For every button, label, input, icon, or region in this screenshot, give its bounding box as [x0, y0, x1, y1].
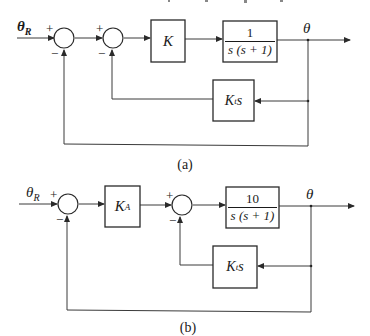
plant-numerator-a: 1	[243, 26, 258, 40]
clipped-text-remnant	[168, 0, 283, 3]
caption-b: (b)	[180, 320, 196, 336]
plant-block-b: 10 s (s + 1)	[226, 187, 279, 228]
input-label-theta-r-a: θR	[17, 18, 31, 37]
plant-numerator-b: 10	[242, 192, 263, 206]
sum-b1-minus-sign: −	[56, 213, 63, 226]
sum-b2-minus-sign: −	[169, 214, 176, 227]
plant-transfer-function-b: 10 s (s + 1)	[228, 192, 278, 224]
kt-s: s	[238, 259, 243, 275]
plant-denominator-a: s (s + 1)	[225, 43, 275, 57]
subscript-r: R	[25, 26, 32, 37]
output-label-theta-b: θ	[306, 186, 313, 203]
sum-b1-plus-sign: +	[50, 188, 57, 201]
summing-junction-b1	[58, 194, 78, 214]
sum-a1-minus-sign: −	[51, 47, 58, 60]
plant-denominator-b: s (s + 1)	[228, 209, 278, 223]
ka-k: K	[115, 198, 125, 215]
gain-block-k: K	[151, 20, 185, 62]
sum-a1-plus-sign: +	[46, 22, 53, 35]
diagram-b-wiring	[19, 186, 354, 312]
summing-junction-a2	[103, 28, 123, 48]
block-diagram-figure: θR + − + − K 1 s (s + 1) θ Kts (a) θR + …	[0, 0, 370, 336]
kt-s: s	[237, 93, 242, 109]
summing-junction-b2	[172, 195, 192, 215]
sum-a2-minus-sign: −	[98, 47, 105, 60]
input-label-theta-r-b: θR	[26, 184, 39, 203]
plant-transfer-function-a: 1 s (s + 1)	[225, 26, 275, 58]
sum-a2-plus-sign: +	[96, 22, 103, 35]
theta-symbol: θ	[17, 18, 25, 34]
subscript-r: R	[33, 192, 39, 203]
kt-k: K	[225, 93, 234, 109]
gain-k-label: K	[163, 33, 173, 50]
tachometer-feedback-block-a: Kts	[213, 80, 254, 121]
sum-b2-plus-sign: +	[166, 189, 173, 202]
output-label-theta-a: θ	[303, 20, 310, 37]
kt-k: K	[226, 259, 235, 275]
summing-junction-a1	[54, 28, 74, 48]
caption-a: (a)	[177, 157, 193, 173]
ka-sub: A	[125, 202, 131, 212]
tachometer-feedback-block-b: Kts	[213, 246, 257, 288]
plant-block-a: 1 s (s + 1)	[223, 21, 277, 62]
amplifier-gain-block-ka: KA	[105, 186, 140, 227]
